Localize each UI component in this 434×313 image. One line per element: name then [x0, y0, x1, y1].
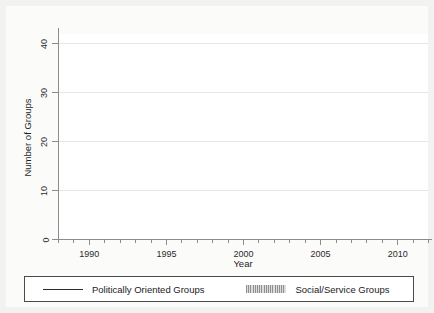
x-tick-2003 — [289, 240, 290, 243]
x-tick-1999 — [228, 240, 229, 243]
plot-area: 0 10 20 30 40 19901995200020052010 — [58, 34, 428, 240]
x-tick-2008 — [366, 240, 367, 243]
x-tick-2005: 2005 — [320, 240, 321, 245]
x-tick-1993 — [135, 240, 136, 243]
legend-label-social-service-groups: Social/Service Groups — [295, 284, 389, 295]
x-axis-line — [58, 239, 432, 240]
x-tick-2009 — [382, 240, 383, 243]
x-tick-1997 — [197, 240, 198, 243]
hatched-band-key-icon — [246, 285, 286, 293]
x-tick-1998 — [212, 240, 213, 243]
gridline-20 — [58, 141, 428, 142]
legend-entry-politically-oriented-groups[interactable]: Politically Oriented Groups — [43, 277, 204, 301]
x-tick-1996 — [181, 240, 182, 243]
y-tick-20: 20 — [52, 141, 58, 142]
y-tick-label-40: 40 — [39, 38, 48, 48]
y-tick-40: 40 — [52, 43, 58, 44]
y-axis-title-text: Number of Groups — [22, 98, 33, 176]
gridline-40 — [58, 43, 428, 44]
x-tick-2011 — [413, 240, 414, 243]
figure-canvas: Number of Groups 0 10 20 — [6, 6, 428, 307]
x-tick-1992 — [120, 240, 121, 243]
chart-legend: Politically Oriented Groups Social/Servi… — [24, 276, 414, 302]
y-tick-label-20: 20 — [39, 136, 48, 146]
legend-entry-social-service-groups[interactable]: Social/Service Groups — [246, 277, 389, 301]
x-tick-1989 — [73, 240, 74, 243]
plot-background — [58, 34, 428, 240]
x-tick-1988 — [58, 240, 59, 243]
x-tick-2000: 2000 — [243, 240, 244, 245]
y-tick-label-10: 10 — [39, 185, 48, 195]
x-tick-2001 — [258, 240, 259, 243]
y-tick-30: 30 — [52, 92, 58, 93]
x-tick-2010: 2010 — [397, 240, 398, 245]
x-tick-1995: 1995 — [166, 240, 167, 245]
x-tick-2007 — [351, 240, 352, 243]
x-axis-title: Year — [58, 258, 428, 269]
x-tick-2012 — [428, 240, 429, 243]
x-tick-1990: 1990 — [89, 240, 90, 245]
x-tick-1991 — [104, 240, 105, 243]
y-axis-line — [58, 28, 59, 240]
x-tick-2006 — [336, 240, 337, 243]
solid-line-key-icon — [43, 289, 83, 290]
y-axis-title: Number of Groups — [20, 34, 34, 240]
legend-label-politically-oriented-groups: Politically Oriented Groups — [92, 284, 204, 295]
x-tick-2004 — [305, 240, 306, 243]
x-tick-2002 — [274, 240, 275, 243]
gridline-30 — [58, 92, 428, 93]
y-tick-10: 10 — [52, 190, 58, 191]
y-tick-label-0: 0 — [42, 237, 51, 242]
x-tick-1994 — [151, 240, 152, 243]
gridline-10 — [58, 190, 428, 191]
y-tick-label-30: 30 — [39, 87, 48, 97]
chart-screenshot: Number of Groups 0 10 20 — [0, 0, 434, 313]
